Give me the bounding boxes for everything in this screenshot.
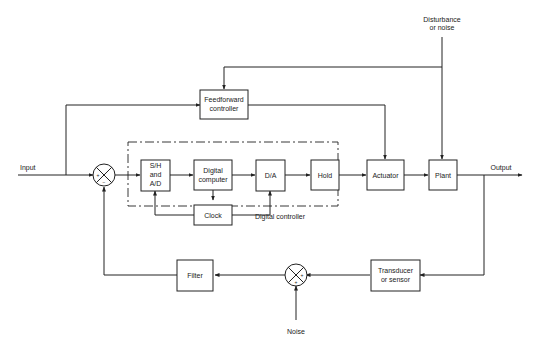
plus-sign: + — [97, 172, 100, 178]
feedforward-to-actuator-line — [248, 105, 385, 159]
disturbance-label-line2: or noise — [430, 24, 455, 31]
plant-block: Plant — [429, 160, 457, 190]
input-to-feedforward-line — [66, 105, 200, 175]
clock-to-da-line — [232, 191, 270, 215]
disturbance-to-feedforward-line — [224, 67, 442, 89]
sh-ad-block: S/H and A/D — [141, 160, 170, 191]
clock-to-sh-line — [155, 191, 194, 215]
minus-sign: − — [103, 179, 106, 185]
feedforward-controller-block: Feedforward controller — [200, 90, 248, 119]
output-label: Output — [490, 164, 511, 172]
digital-computer-block: Digital computer — [194, 160, 232, 190]
disturbance-label: Disturbance — [423, 16, 460, 23]
svg-text:controller: controller — [210, 105, 239, 112]
svg-text:Feedforward: Feedforward — [204, 96, 243, 103]
plus-sign: + — [301, 272, 304, 278]
svg-text:computer: computer — [198, 176, 228, 184]
filter-to-error-sum-line — [104, 187, 177, 275]
da-block: D/A — [256, 160, 285, 191]
digital-control-block-diagram: Digital controller Feedforward controlle… — [0, 0, 541, 350]
noise-label: Noise — [287, 328, 305, 335]
svg-text:Actuator: Actuator — [372, 172, 399, 179]
svg-text:or sensor: or sensor — [381, 276, 411, 283]
noise-summing-junction: + + — [285, 264, 307, 286]
svg-text:Plant: Plant — [435, 172, 451, 179]
transducer-block: Transducer or sensor — [371, 260, 420, 291]
svg-text:Transducer: Transducer — [378, 267, 414, 274]
clock-block: Clock — [194, 205, 232, 225]
error-summing-junction: + − — [93, 164, 115, 186]
svg-text:D/A: D/A — [265, 172, 277, 179]
svg-text:Digital: Digital — [203, 167, 223, 175]
input-label: Input — [20, 164, 36, 172]
plus-sign: + — [295, 279, 298, 285]
svg-text:and: and — [150, 171, 162, 178]
svg-text:S/H: S/H — [150, 162, 162, 169]
digital-controller-label: Digital controller — [255, 213, 306, 221]
svg-text:A/D: A/D — [150, 180, 162, 187]
filter-block: Filter — [177, 260, 213, 291]
svg-text:Filter: Filter — [187, 272, 203, 279]
svg-text:Clock: Clock — [204, 212, 222, 219]
svg-text:Hold: Hold — [318, 172, 333, 179]
hold-block: Hold — [311, 160, 339, 190]
actuator-block: Actuator — [367, 160, 404, 190]
